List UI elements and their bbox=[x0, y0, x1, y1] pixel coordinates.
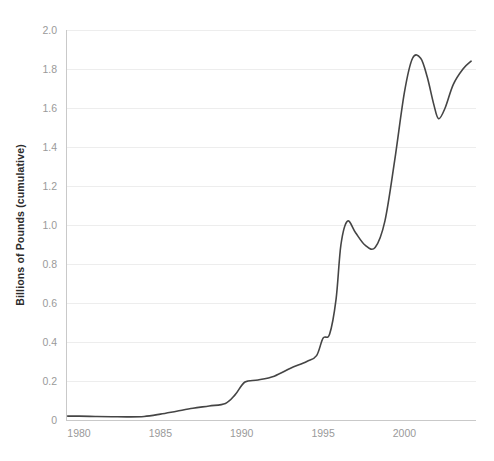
y-axis-title-text: Billions of Pounds (cumulative) bbox=[14, 144, 26, 306]
x-tick-label: 1995 bbox=[311, 427, 335, 439]
y-tick-label: 0.8 bbox=[42, 258, 57, 270]
y-tick-label: 1.0 bbox=[42, 219, 57, 231]
y-tick-label: 0.6 bbox=[42, 297, 57, 309]
y-tick-label: 1.4 bbox=[42, 141, 57, 153]
x-tick-label: 2000 bbox=[393, 427, 417, 439]
y-tick-label: 0.2 bbox=[42, 375, 57, 387]
y-tick-label: 1.2 bbox=[42, 180, 57, 192]
x-tick-label: 1985 bbox=[149, 427, 173, 439]
y-tick-label: 1.8 bbox=[42, 63, 57, 75]
y-tick-label: 1.6 bbox=[42, 102, 57, 114]
line-chart: 00.20.40.60.81.01.21.41.61.82.0 19801985… bbox=[0, 0, 494, 461]
y-tick-label: 0 bbox=[51, 414, 57, 426]
x-tick-label: 1990 bbox=[230, 427, 254, 439]
chart-container: 00.20.40.60.81.01.21.41.61.82.0 19801985… bbox=[0, 0, 494, 461]
y-tick-label: 0.4 bbox=[42, 336, 57, 348]
y-tick-label: 2.0 bbox=[42, 24, 57, 36]
x-tick-label: 1980 bbox=[67, 427, 91, 439]
y-axis-title: Billions of Pounds (cumulative) bbox=[14, 144, 26, 306]
